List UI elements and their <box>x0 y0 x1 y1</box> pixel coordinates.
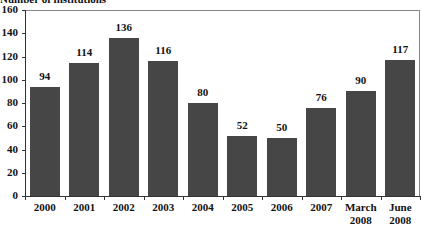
y-tick-label: 40 <box>0 143 18 155</box>
data-label: 50 <box>262 121 302 133</box>
bar <box>30 87 60 196</box>
data-label: 76 <box>301 91 341 103</box>
x-tick <box>104 196 105 200</box>
y-tick-label: 100 <box>0 73 18 85</box>
y-tick <box>22 33 26 34</box>
bar <box>109 38 139 196</box>
y-tick-label: 160 <box>0 3 18 15</box>
bar <box>148 61 178 196</box>
x-tick <box>65 196 66 200</box>
y-tick-label: 80 <box>0 96 18 108</box>
x-tick <box>262 196 263 200</box>
data-label: 136 <box>104 21 144 33</box>
y-tick <box>22 10 26 11</box>
y-tick-label: 60 <box>0 119 18 131</box>
bar <box>306 108 336 196</box>
x-tick <box>341 196 342 200</box>
x-tick <box>144 196 145 200</box>
bar <box>188 103 218 196</box>
y-tick <box>22 103 26 104</box>
x-tick <box>223 196 224 200</box>
data-label: 114 <box>64 46 104 58</box>
y-tick <box>22 57 26 58</box>
data-label: 80 <box>183 86 223 98</box>
x-tick-label: June2008 <box>375 201 422 227</box>
bar <box>385 60 415 196</box>
bar <box>346 91 376 196</box>
x-tick <box>302 196 303 200</box>
bar <box>267 138 297 196</box>
y-tick-label: 120 <box>0 50 18 62</box>
data-label: 116 <box>143 44 183 56</box>
x-tick <box>420 196 421 200</box>
y-tick <box>22 173 26 174</box>
bar <box>227 136 257 196</box>
y-tick-label: 0 <box>0 189 18 201</box>
x-tick <box>183 196 184 200</box>
x-tick <box>25 196 26 200</box>
y-tick-label: 140 <box>0 26 18 38</box>
y-tick <box>22 126 26 127</box>
x-tick <box>381 196 382 200</box>
bar <box>69 63 99 196</box>
y-tick <box>22 150 26 151</box>
data-label: 117 <box>380 43 420 55</box>
data-label: 94 <box>25 70 65 82</box>
data-label: 52 <box>222 119 262 131</box>
data-label: 90 <box>341 74 381 86</box>
y-tick-label: 20 <box>0 166 18 178</box>
